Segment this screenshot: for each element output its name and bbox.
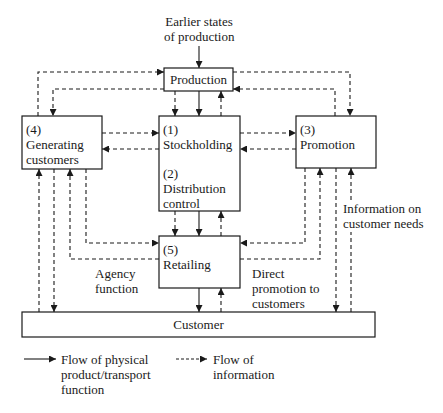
earlier-states-line1: Earlier states xyxy=(164,14,234,29)
stockholding-num: (1) xyxy=(163,122,232,137)
direct-promotion-label: Direct promotion to customers xyxy=(252,266,320,311)
promotion-line1: Promotion xyxy=(300,137,355,152)
info-promotion-to-production xyxy=(233,89,335,116)
generating-customers-label: (4) Generating customers xyxy=(26,122,84,167)
legend-information-label: Flow of information xyxy=(213,352,274,382)
stockholding-line1: Stockholding xyxy=(163,137,232,152)
promotion-label: (3) Promotion xyxy=(300,122,355,152)
retailing-label: (5) Retailing xyxy=(163,242,211,272)
info-retail-to-promotion xyxy=(240,168,320,259)
direct-line2: promotion to xyxy=(252,281,320,296)
legend-physical-line3: function xyxy=(61,382,151,397)
info-needs-line1: Information on xyxy=(343,201,424,216)
legend-physical-line2: product/transport xyxy=(61,367,151,382)
distribution-line1: Distribution xyxy=(163,181,226,196)
legend-physical-line1: Flow of physical xyxy=(61,352,151,367)
info-retail-to-generating xyxy=(70,169,159,259)
generating-line1: Generating xyxy=(26,137,84,152)
earlier-states-line2: of production xyxy=(164,29,234,44)
stockholding-label: (1) Stockholding xyxy=(163,122,232,152)
promotion-num: (3) xyxy=(300,122,355,137)
direct-line3: customers xyxy=(252,296,320,311)
direct-line1: Direct xyxy=(252,266,320,281)
retailing-num: (5) xyxy=(163,242,211,257)
info-generating-to-retail xyxy=(86,169,159,243)
info-needs-line2: customer needs xyxy=(343,216,424,231)
info-promotion-to-retail xyxy=(240,168,305,243)
generating-num: (4) xyxy=(26,122,84,137)
distribution-control-label: (2) Distribution control xyxy=(163,166,226,211)
info-production-to-generating xyxy=(53,89,164,116)
distribution-line2: control xyxy=(163,196,226,211)
agency-line1: Agency xyxy=(95,266,138,281)
info-customer-needs-label: Information on customer needs xyxy=(343,200,424,232)
earlier-states-label: Earlier states of production xyxy=(164,14,234,44)
legend-information-line2: information xyxy=(213,367,274,382)
info-generating-to-production xyxy=(38,72,164,116)
legend-information-line1: Flow of xyxy=(213,352,274,367)
retailing-line1: Retailing xyxy=(163,257,211,272)
agency-function-label: Agency function xyxy=(95,266,138,296)
info-production-to-promotion xyxy=(233,72,350,116)
agency-line2: function xyxy=(95,281,138,296)
customer-label: Customer xyxy=(22,317,375,332)
generating-line2: customers xyxy=(26,152,84,167)
production-label: Production xyxy=(164,72,233,87)
legend-physical-label: Flow of physical product/transport funct… xyxy=(61,352,151,397)
distribution-num: (2) xyxy=(163,166,226,181)
